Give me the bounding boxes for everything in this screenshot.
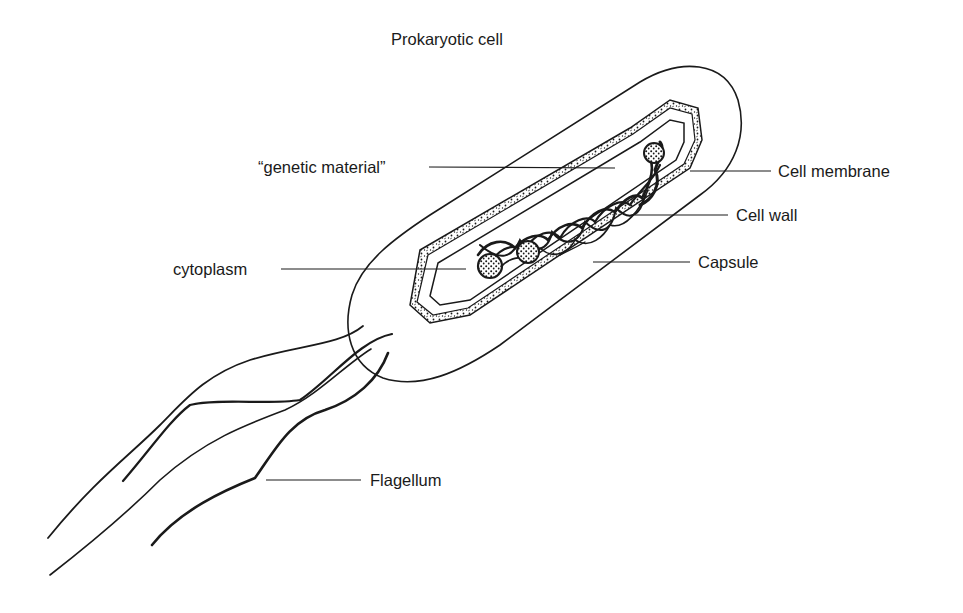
prokaryotic-cell-diagram: Prokaryotic cell “genetic material” Cell… xyxy=(0,0,963,613)
plasmid-ball-1 xyxy=(478,254,502,278)
label-cell-membrane: Cell membrane xyxy=(778,163,890,180)
cell-wall-inner-edge xyxy=(417,108,695,315)
plasmid-ball-2 xyxy=(517,241,539,263)
diagram-title: Prokaryotic cell xyxy=(391,31,503,48)
label-genetic-material: “genetic material” xyxy=(258,159,385,176)
cell-illustration xyxy=(0,0,963,613)
label-capsule: Capsule xyxy=(698,254,759,271)
plasmid-ball-3 xyxy=(644,143,664,163)
label-flagellum: Flagellum xyxy=(370,472,442,489)
label-cytoplasm: cytoplasm xyxy=(173,261,247,278)
label-cell-wall: Cell wall xyxy=(736,207,797,224)
flagella xyxy=(48,326,392,575)
